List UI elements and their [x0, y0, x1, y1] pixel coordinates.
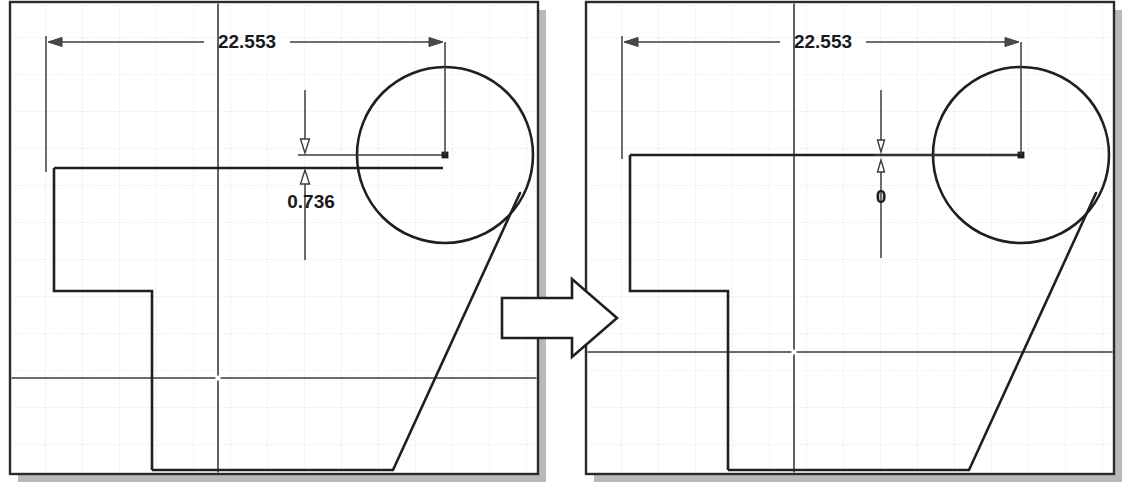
sketch-origin-point: [215, 375, 220, 380]
sketch-origin-point: [791, 349, 796, 354]
transition-arrow: [500, 276, 620, 360]
panel-after: 22.553 0: [584, 0, 1130, 486]
dimension-value-horizontal[interactable]: 22.553: [794, 31, 852, 52]
drawing-after: 22.553 0: [584, 0, 1130, 496]
sketch-grid-minor: [12, 4, 537, 473]
sketch-grid-minor: [588, 4, 1113, 473]
arrow-right-icon: [502, 279, 617, 357]
dimension-value-horizontal[interactable]: 22.553: [218, 31, 276, 52]
figure-root: 22.553 0.736: [0, 0, 1138, 504]
drawing-before: 22.553 0.736: [8, 0, 554, 496]
panel-before: 22.553 0.736: [8, 0, 554, 486]
transition-arrow-wrap: [500, 276, 620, 360]
dimension-value-vertical[interactable]: 0: [876, 186, 887, 207]
dimension-value-vertical[interactable]: 0.736: [287, 191, 335, 212]
